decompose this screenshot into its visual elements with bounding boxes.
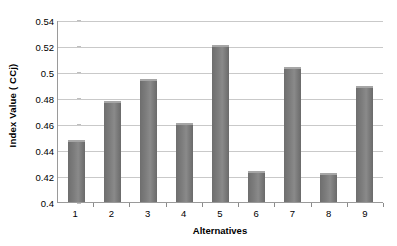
bar[interactable] xyxy=(356,86,373,202)
x-axis-tick-label: 5 xyxy=(202,208,238,224)
y-axis-title: Index Value ( CCj) xyxy=(0,0,26,210)
y-axis-tick-labels: 0.40.420.440.460.480.50.520.54 xyxy=(24,0,57,246)
y-axis-tick-label: 0.48 xyxy=(36,94,55,105)
y-axis-tick-label: 0.46 xyxy=(36,120,55,131)
x-axis-tick-label: 8 xyxy=(311,208,347,224)
x-axis-tick-mark xyxy=(274,203,275,207)
bar[interactable] xyxy=(320,173,337,202)
plot-area xyxy=(57,21,383,203)
bar-series xyxy=(58,21,383,202)
x-axis-tick-mark xyxy=(238,203,239,207)
bar[interactable] xyxy=(104,101,121,202)
x-axis-tick-label: 6 xyxy=(238,208,274,224)
bar-slot xyxy=(239,21,275,202)
bar-slot xyxy=(130,21,166,202)
bar[interactable] xyxy=(248,171,265,202)
x-axis-tick-mark xyxy=(383,203,384,207)
bar-slot xyxy=(166,21,202,202)
x-axis-tick-mark xyxy=(129,203,130,207)
x-axis-tick-label: 4 xyxy=(166,208,202,224)
x-axis-tick-label: 7 xyxy=(274,208,310,224)
bar-slot xyxy=(94,21,130,202)
bar[interactable] xyxy=(140,79,157,203)
bar[interactable] xyxy=(176,123,193,202)
y-axis-tick-label: 0.44 xyxy=(36,146,55,157)
bar[interactable] xyxy=(284,67,301,202)
x-axis-tick-mark xyxy=(93,203,94,207)
y-axis-tick-label: 0.54 xyxy=(36,16,55,27)
bar-chart: Index Value ( CCj) 0.40.420.440.460.480.… xyxy=(0,0,397,246)
x-axis-tick-mark xyxy=(166,203,167,207)
x-axis-tick-label: 2 xyxy=(93,208,129,224)
x-axis-tick-label: 3 xyxy=(129,208,165,224)
y-axis-tick-label: 0.42 xyxy=(36,172,55,183)
bar-slot xyxy=(347,21,383,202)
x-axis-tick-mark xyxy=(311,203,312,207)
x-axis-tick-labels: 123456789 xyxy=(57,208,383,224)
y-axis-title-label: Index Value ( CCj) xyxy=(8,63,19,147)
x-axis-tick-label: 9 xyxy=(347,208,383,224)
y-axis-tick-label: 0.4 xyxy=(41,198,54,209)
bar-slot xyxy=(58,21,94,202)
bar[interactable] xyxy=(212,45,229,202)
bar[interactable] xyxy=(68,140,85,202)
bar-slot xyxy=(275,21,311,202)
x-axis-tick-label: 1 xyxy=(57,208,93,224)
y-axis-tick-label: 0.5 xyxy=(41,68,54,79)
bar-slot xyxy=(202,21,238,202)
x-axis-tick-mark xyxy=(202,203,203,207)
x-axis-tick-mark xyxy=(347,203,348,207)
bar-slot xyxy=(311,21,347,202)
y-axis-tick-label: 0.52 xyxy=(36,42,55,53)
x-axis-title: Alternatives xyxy=(57,225,383,236)
